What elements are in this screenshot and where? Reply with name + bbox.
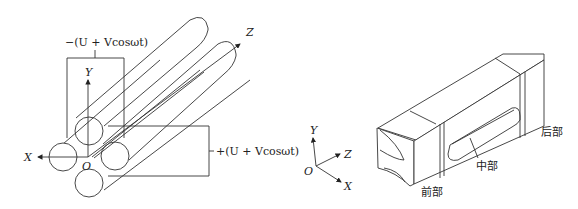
axis-label-z-small: Z <box>343 148 352 161</box>
axis-label-x-small: X <box>343 180 353 193</box>
origin-label-small: O <box>304 165 313 178</box>
origin-label: O <box>82 160 91 173</box>
label-middle: 中部 <box>476 159 498 173</box>
axis-label-y-small: Y <box>310 124 319 137</box>
axis-label-z: Z <box>245 26 254 39</box>
segmented-electrode-figure: 前部 中部 后部 <box>377 54 563 199</box>
quadrupole-rods-figure: −(U + Vcosωt) +(U + Vcosωt) Y X Z O <box>23 17 299 197</box>
axis-label-x: X <box>23 151 33 164</box>
diagram-canvas: −(U + Vcosωt) +(U + Vcosωt) Y X Z O Y Z … <box>0 0 578 209</box>
x-axis-arrow-small <box>316 166 341 182</box>
voltage-label-right: +(U + Vcosωt) <box>216 145 299 158</box>
label-front: 前部 <box>421 185 443 199</box>
label-back: 后部 <box>541 125 563 139</box>
z-axis-arrow-small <box>316 154 340 166</box>
y-axis-arrow-small <box>313 138 316 166</box>
voltage-label-top: −(U + Vcosωt) <box>65 36 148 49</box>
axis-label-y: Y <box>85 66 94 79</box>
coordinate-system-figure: Y Z X O <box>304 124 353 193</box>
z-axis-line <box>88 44 240 157</box>
